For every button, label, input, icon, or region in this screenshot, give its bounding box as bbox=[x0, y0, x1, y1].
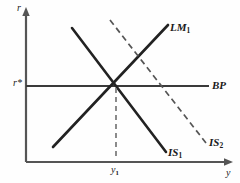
is-lm-bp-diagram: r r* y y1 LM1 BP IS1 IS2 bbox=[0, 0, 240, 183]
curve-label-is2-subscript: 2 bbox=[219, 141, 223, 150]
curve-is2 bbox=[110, 20, 206, 143]
x-tick-label-y1: y1 bbox=[111, 165, 119, 175]
curve-label-bp: BP bbox=[212, 80, 226, 91]
curve-is1 bbox=[72, 28, 166, 152]
curve-label-lm1-subscript: 1 bbox=[187, 26, 191, 35]
y-axis-label: r bbox=[17, 3, 21, 13]
diagram-canvas bbox=[0, 0, 240, 183]
x-tick-label-subscript: 1 bbox=[115, 169, 118, 176]
x-axis-arrowhead bbox=[224, 158, 233, 165]
y-axis-arrowhead bbox=[22, 7, 29, 16]
curve-label-is1: IS1 bbox=[168, 147, 182, 158]
x-axis-label: y bbox=[226, 168, 230, 178]
y-tick-label-r-star: r* bbox=[13, 78, 22, 88]
curve-label-is2: IS2 bbox=[209, 137, 223, 148]
curve-label-lm1: LM1 bbox=[170, 22, 190, 33]
curve-label-is1-base: IS bbox=[168, 146, 178, 158]
curve-label-is2-base: IS bbox=[209, 136, 219, 148]
curve-label-is1-subscript: 1 bbox=[178, 151, 182, 160]
curve-label-lm1-base: LM bbox=[170, 21, 187, 33]
